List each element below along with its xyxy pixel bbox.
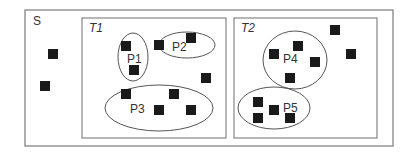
partition-p2: P2 [154, 32, 215, 58]
element-square [346, 49, 356, 59]
element-square [121, 41, 131, 51]
element-square [186, 33, 196, 43]
element-square [285, 73, 295, 83]
element-square [48, 49, 58, 59]
partition-p3: P3 [105, 85, 213, 131]
element-square [285, 113, 295, 123]
outer-loose-elements [40, 49, 58, 91]
element-square [253, 97, 263, 107]
partition-label: P5 [283, 101, 298, 115]
element-square [169, 89, 179, 99]
partition-p4: P4 [263, 31, 327, 89]
element-square [129, 65, 139, 75]
element-square [201, 73, 211, 83]
subset-label: T1 [89, 21, 103, 35]
partition-p1: P1 [118, 33, 148, 81]
element-square [121, 89, 131, 99]
element-square [293, 41, 303, 51]
element-square [40, 81, 50, 91]
partition-label: P4 [283, 52, 298, 66]
element-square [330, 25, 340, 35]
subset-label: T2 [241, 21, 255, 35]
outer-set-label: S [33, 14, 41, 28]
element-square [269, 105, 279, 115]
subset-t1: T1P1P2P3 [82, 18, 226, 138]
element-square [269, 49, 279, 59]
partition-label: P2 [172, 40, 187, 54]
partition-label: P1 [127, 52, 142, 66]
partition-p5: P5 [238, 87, 310, 129]
element-square [154, 105, 164, 115]
partition-label: P3 [130, 102, 145, 116]
subset-t2: T2P4P5 [234, 18, 377, 138]
element-square [154, 40, 164, 50]
element-square [253, 113, 263, 123]
element-square [186, 105, 196, 115]
element-square [310, 57, 320, 67]
set-partition-diagram: S T1P1P2P3 T2P4P5 [0, 0, 419, 160]
